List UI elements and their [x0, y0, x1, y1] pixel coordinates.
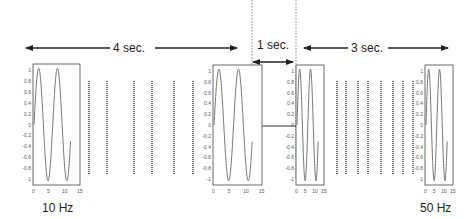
x-tick-label: 10: [312, 188, 318, 194]
y-tick-label: 0.2: [24, 111, 31, 117]
y-tick-label: -1: [419, 176, 423, 182]
x-tick-label: 15: [321, 188, 327, 194]
y-tick-label: 0.8: [287, 79, 294, 85]
plot-1: [33, 64, 80, 185]
y-tick-label: 0.8: [204, 79, 211, 85]
y-tick-label: -0.4: [202, 144, 211, 150]
x-tick-label: 10: [441, 188, 447, 194]
y-tick-label: -0.8: [285, 165, 294, 171]
y-tick-label: 0.4: [204, 100, 211, 106]
y-tick-label: 0: [420, 122, 423, 128]
y-tick-label: -0.2: [285, 133, 294, 139]
x-tick-label: 15: [259, 188, 265, 194]
four-second-label: 4 sec.: [113, 41, 145, 55]
end-frequency-label: 50 Hz: [420, 201, 451, 215]
one-second-label: 1 sec.: [257, 38, 289, 52]
y-tick-label: -0.6: [202, 154, 211, 160]
y-tick-label: 1: [291, 68, 294, 74]
plot-2: [213, 65, 262, 185]
x-tick-label: 5: [304, 188, 307, 194]
y-tick-label: -0.8: [22, 165, 31, 171]
x-tick-label: 0: [424, 188, 427, 194]
x-tick-label: 0: [295, 188, 298, 194]
y-tick-label: -0.6: [22, 154, 31, 160]
y-tick-label: -0.4: [22, 143, 31, 149]
plot-frame: [425, 65, 453, 185]
x-tick-label: 15: [450, 188, 456, 194]
y-tick-label: 0.8: [416, 79, 423, 85]
x-tick-label: 10: [243, 188, 249, 194]
x-tick-label: 0: [32, 188, 35, 194]
x-tick-label: 5: [228, 188, 231, 194]
plot-4: [425, 65, 453, 185]
y-tick-label: 1: [208, 68, 211, 74]
y-tick-label: -1: [207, 176, 211, 182]
y-tick-label: -0.8: [202, 165, 211, 171]
y-tick-label: 0.4: [416, 100, 423, 106]
plot-frame: [33, 64, 80, 185]
x-tick-label: 0: [212, 188, 215, 194]
y-tick-label: -0.4: [285, 144, 294, 150]
waveform-plots: [33, 64, 453, 185]
y-tick-label: -0.2: [202, 133, 211, 139]
y-tick-label: 1: [28, 67, 31, 73]
diagram-canvas: [0, 0, 476, 219]
plot-frame: [213, 65, 262, 185]
x-tick-label: 5: [47, 188, 50, 194]
y-tick-label: 0.6: [416, 90, 423, 96]
x-tick-label: 15: [77, 188, 83, 194]
y-tick-label: -0.2: [414, 133, 423, 139]
y-tick-label: 0.8: [24, 78, 31, 84]
y-tick-label: 0.6: [287, 90, 294, 96]
plot-frame: [296, 65, 324, 185]
y-tick-label: 0.2: [287, 111, 294, 117]
three-second-label: 3 sec.: [351, 41, 383, 55]
y-tick-label: 1: [420, 68, 423, 74]
y-tick-label: -0.6: [414, 154, 423, 160]
y-tick-label: 0: [291, 122, 294, 128]
start-frequency-label: 10 Hz: [42, 201, 73, 215]
y-tick-label: -0.2: [22, 132, 31, 138]
x-tick-label: 10: [62, 188, 68, 194]
y-tick-label: 0.6: [204, 90, 211, 96]
plot-3: [296, 65, 324, 185]
x-tick-label: 5: [433, 188, 436, 194]
y-tick-label: 0.6: [24, 89, 31, 95]
y-tick-label: 0: [208, 122, 211, 128]
y-tick-label: 0: [28, 122, 31, 128]
y-tick-label: -1: [290, 176, 294, 182]
y-tick-label: -0.4: [414, 144, 423, 150]
y-tick-label: -0.6: [285, 154, 294, 160]
y-tick-label: -0.8: [414, 165, 423, 171]
frequency-sweep-diagram: 4 sec. 1 sec. 3 sec. 10 Hz 50 Hz 10.80.6…: [0, 0, 476, 219]
y-tick-label: 0.4: [287, 100, 294, 106]
y-tick-label: 0.2: [416, 111, 423, 117]
y-tick-label: -1: [27, 176, 31, 182]
y-tick-label: 0.2: [204, 111, 211, 117]
y-tick-label: 0.4: [24, 100, 31, 106]
